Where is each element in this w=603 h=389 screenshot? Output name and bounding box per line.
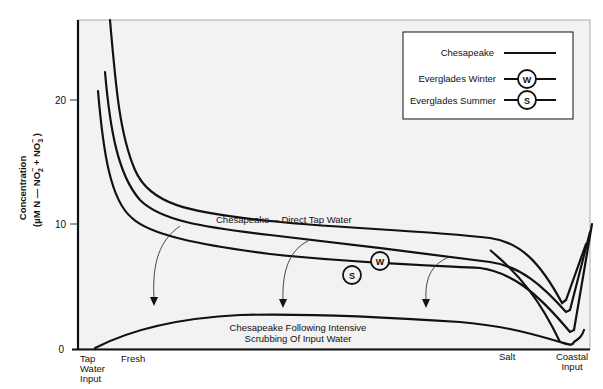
marker-w: W <box>371 252 389 270</box>
legend-label-chesapeake: Chesapeake <box>441 47 494 58</box>
legend: Chesapeake Everglades Winter W Everglade… <box>403 32 573 119</box>
concentration-chart: 20 10 0 Concentration (µM N — NO2− + NO3… <box>0 0 603 389</box>
annotation-scrubbed-line1: Chesapeake Following Intensive <box>230 322 367 333</box>
y-axis-units: (µM N — NO2− + NO3− ) <box>29 133 44 227</box>
y-axis-title-main: Concentration <box>17 156 28 221</box>
annotation-scrubbed-line2: Scrubbing Of Input Water <box>245 333 352 344</box>
y-units-prefix: (µM N — NO <box>31 172 42 227</box>
x-label-coastal-2: Input <box>561 361 582 372</box>
svg-text:(µM N — NO2− + NO3− ): (µM N — NO2− + NO3− ) <box>29 133 44 227</box>
legend-label-winter: Everglades Winter <box>418 73 496 84</box>
y-tick-label-0: 0 <box>58 344 64 355</box>
marker-s-label: S <box>349 271 355 281</box>
y-units-mid: + NO <box>31 143 42 168</box>
marker-s: S <box>343 266 361 284</box>
x-label-tap-3: Input <box>80 373 101 384</box>
x-label-salt: Salt <box>499 351 516 362</box>
legend-marker-w-label: W <box>523 75 532 85</box>
annotation-direct-tap-water: Chesapeake— Direct Tap Water <box>216 214 352 225</box>
y-tick-label-20: 20 <box>55 95 67 106</box>
x-label-fresh: Fresh <box>121 353 145 364</box>
legend-label-summer: Everglades Summer <box>410 95 496 106</box>
y-tick-label-10: 10 <box>55 219 67 230</box>
legend-marker-s-label: S <box>524 96 530 106</box>
marker-w-label: W <box>376 257 385 267</box>
y-axis-title: Concentration <box>17 156 28 221</box>
y-units-suffix: ) <box>31 133 42 139</box>
